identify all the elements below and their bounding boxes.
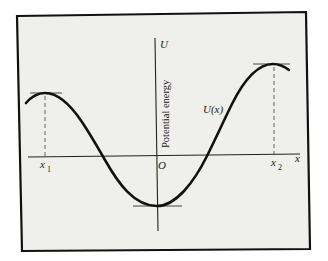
- origin-label: O: [158, 159, 166, 171]
- svg-text:x: x: [39, 158, 45, 170]
- y-axis-symbol: U: [160, 38, 169, 50]
- curve-label: U(x): [203, 103, 223, 116]
- svg-text:x: x: [270, 156, 276, 168]
- svg-text:1: 1: [47, 165, 51, 174]
- potential-energy-diagram: U Potential energy O U(x) x x 1 x 2: [0, 0, 328, 261]
- y-axis-title: Potential energy: [160, 79, 171, 148]
- svg-text:2: 2: [278, 163, 282, 172]
- x-axis-symbol: x: [294, 152, 300, 164]
